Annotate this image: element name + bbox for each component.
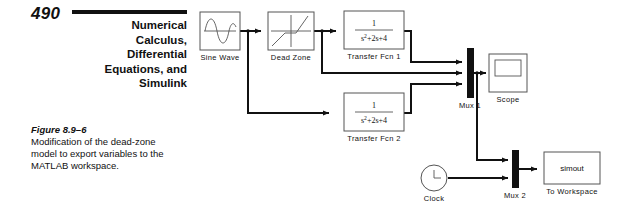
scope-label: Scope xyxy=(496,95,519,104)
junction-deadzone-out xyxy=(320,29,323,32)
block-to-workspace[interactable]: simout To Workspace xyxy=(544,152,600,196)
to-workspace-variable: simout xyxy=(560,164,584,173)
tf2-den-rest: +2s+4 xyxy=(367,116,387,125)
block-mux-1[interactable]: Mux 1 xyxy=(459,48,481,110)
mux-2-label: Mux 2 xyxy=(504,191,526,200)
clock-label: Clock xyxy=(424,194,445,203)
junction-sine-out xyxy=(246,29,249,32)
block-scope[interactable]: Scope xyxy=(489,54,527,104)
transfer-fcn-1-numerator: 1 xyxy=(372,19,376,28)
block-dead-zone[interactable]: Dead Zone xyxy=(268,12,314,62)
wire-tf1-to-mux1 xyxy=(404,31,462,62)
mux-2-body[interactable] xyxy=(512,150,519,188)
junction-mux1-out xyxy=(475,71,478,74)
block-clock[interactable]: Clock xyxy=(421,165,447,203)
block-sine-wave[interactable]: Sine Wave xyxy=(200,12,240,62)
wire-tf2-to-mux1 xyxy=(404,84,462,113)
sine-wave-label: Sine Wave xyxy=(200,53,239,62)
tf1-den-rest: +2s+4 xyxy=(367,34,387,43)
block-transfer-fcn-1[interactable]: 1 s2+2s+4 Transfer Fcn 1 xyxy=(344,11,404,61)
to-workspace-label: To Workspace xyxy=(546,187,598,196)
block-transfer-fcn-2[interactable]: 1 s2+2s+4 Transfer Fcn 2 xyxy=(344,93,404,143)
mux-1-label: Mux 1 xyxy=(459,101,481,110)
figure-page: 490 Numerical Calculus, Differential Equ… xyxy=(0,0,619,207)
dead-zone-label: Dead Zone xyxy=(271,53,311,62)
transfer-fcn-2-label: Transfer Fcn 2 xyxy=(347,134,400,143)
simulink-block-diagram: Sine Wave Dead Zone 1 s2+2s+4 Transfer F… xyxy=(0,0,619,207)
mux-1-body[interactable] xyxy=(467,48,474,98)
transfer-fcn-1-label: Transfer Fcn 1 xyxy=(347,52,400,61)
block-mux-2[interactable]: Mux 2 xyxy=(504,150,526,200)
transfer-fcn-2-numerator: 1 xyxy=(372,101,376,110)
